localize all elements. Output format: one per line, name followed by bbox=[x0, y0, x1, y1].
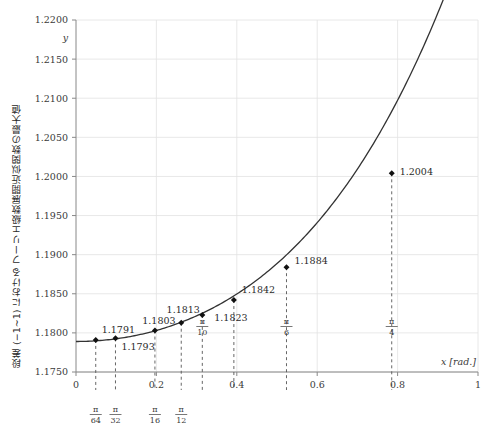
svg-text:1.1803: 1.1803 bbox=[142, 315, 175, 326]
svg-text:0.8: 0.8 bbox=[390, 379, 405, 390]
svg-text:16: 16 bbox=[150, 416, 160, 425]
svg-text:1.2100: 1.2100 bbox=[35, 93, 68, 104]
svg-text:1.2004: 1.2004 bbox=[400, 166, 433, 177]
axis-frame bbox=[72, 20, 478, 376]
svg-text:1.2050: 1.2050 bbox=[35, 132, 68, 143]
x-axis-tick-labels: 00.20.40.60.81 bbox=[73, 379, 481, 390]
svg-text:0.2: 0.2 bbox=[149, 379, 164, 390]
svg-text:1.1850: 1.1850 bbox=[35, 288, 68, 299]
svg-text:0.4: 0.4 bbox=[229, 379, 244, 390]
svg-text:64: 64 bbox=[91, 416, 101, 425]
svg-text:12: 12 bbox=[176, 416, 186, 425]
svg-text:1.1842: 1.1842 bbox=[242, 284, 275, 295]
svg-text:1.2000: 1.2000 bbox=[35, 171, 68, 182]
svg-text:32: 32 bbox=[110, 416, 120, 425]
svg-text:π: π bbox=[179, 405, 184, 414]
svg-text:1.1750: 1.1750 bbox=[35, 366, 68, 377]
svg-text:1.2200: 1.2200 bbox=[35, 14, 68, 25]
svg-text:π: π bbox=[93, 405, 98, 414]
svg-text:0.6: 0.6 bbox=[310, 379, 325, 390]
svg-text:1.1900: 1.1900 bbox=[35, 249, 68, 260]
svg-text:π: π bbox=[284, 317, 289, 326]
y-axis-vertical-label: 段差 (−1~1) における フーリエ級数展開近似関数の最大値 bbox=[10, 38, 24, 368]
svg-text:6: 6 bbox=[284, 328, 289, 337]
svg-text:1.2150: 1.2150 bbox=[35, 54, 68, 65]
svg-text:1.1800: 1.1800 bbox=[35, 327, 68, 338]
svg-text:π: π bbox=[113, 405, 118, 414]
svg-text:10: 10 bbox=[197, 328, 207, 337]
svg-text:1.1791: 1.1791 bbox=[102, 324, 135, 335]
figure-container: 段差 (−1~1) における フーリエ級数展開近似関数の最大値 00.20.40… bbox=[0, 0, 504, 435]
axis-name-labels: yx [rad.] bbox=[62, 32, 477, 367]
svg-text:y: y bbox=[62, 32, 69, 43]
svg-text:0: 0 bbox=[73, 379, 79, 390]
svg-text:x [rad.]: x [rad.] bbox=[441, 356, 476, 367]
svg-text:π: π bbox=[389, 317, 394, 326]
svg-text:1.1793: 1.1793 bbox=[121, 341, 154, 352]
svg-text:1.1823: 1.1823 bbox=[214, 312, 247, 323]
chart-plot-area: 00.20.40.60.81 1.17501.18001.18501.19001… bbox=[0, 0, 504, 435]
drop-lines bbox=[96, 173, 392, 390]
y-axis-tick-labels: 1.17501.18001.18501.19001.19501.20001.20… bbox=[35, 14, 68, 377]
data-point-labels: 1.17911.17931.18031.18131.18231.18421.18… bbox=[102, 166, 433, 352]
svg-text:1.1813: 1.1813 bbox=[167, 304, 200, 315]
svg-text:1.1950: 1.1950 bbox=[35, 210, 68, 221]
svg-text:4: 4 bbox=[389, 328, 394, 337]
svg-text:π: π bbox=[152, 405, 157, 414]
svg-text:1.1884: 1.1884 bbox=[294, 255, 327, 266]
svg-text:π: π bbox=[200, 317, 205, 326]
grid-lines bbox=[76, 20, 478, 372]
svg-text:1: 1 bbox=[475, 379, 481, 390]
